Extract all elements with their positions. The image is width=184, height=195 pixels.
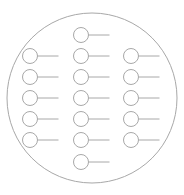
node-middle-3 (74, 70, 110, 85)
node-left-4 (23, 112, 59, 127)
node-circle (124, 112, 139, 127)
node-right-3 (124, 91, 160, 106)
node-left-1 (23, 49, 59, 64)
node-middle-4 (74, 91, 110, 106)
node-circle (23, 91, 38, 106)
node-group (23, 28, 160, 170)
node-middle-6 (74, 133, 110, 148)
node-circle (23, 70, 38, 85)
node-right-2 (124, 70, 160, 85)
node-circle (74, 155, 89, 170)
node-circle (74, 49, 89, 64)
node-middle-7 (74, 155, 110, 170)
node-left-2 (23, 70, 59, 85)
node-circle (74, 91, 89, 106)
node-left-5 (23, 133, 59, 148)
node-circle (23, 112, 38, 127)
node-circle (124, 49, 139, 64)
node-circle (124, 91, 139, 106)
node-right-4 (124, 112, 160, 127)
node-circle (23, 133, 38, 148)
node-circle (74, 133, 89, 148)
node-circle (74, 70, 89, 85)
node-middle-2 (74, 49, 110, 64)
node-circle (74, 28, 89, 43)
diagram-canvas (0, 0, 184, 195)
circle-node-diagram (0, 0, 184, 195)
node-middle-1 (74, 28, 110, 43)
node-middle-5 (74, 112, 110, 127)
node-circle (124, 70, 139, 85)
node-circle (74, 112, 89, 127)
node-left-3 (23, 91, 59, 106)
node-circle (23, 49, 38, 64)
node-right-5 (124, 133, 160, 148)
node-circle (124, 133, 139, 148)
node-right-1 (124, 49, 160, 64)
